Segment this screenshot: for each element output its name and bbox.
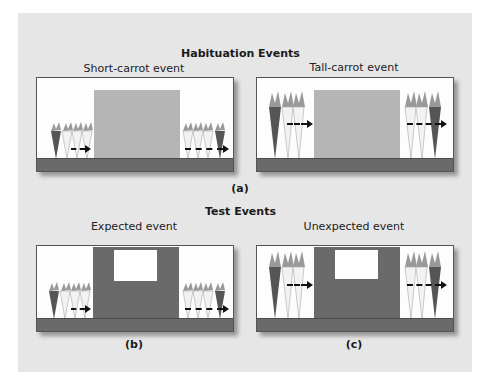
unexpected-event-label: (c)	[254, 338, 454, 351]
screen-window	[335, 250, 378, 279]
motion-arrow-icon	[185, 148, 223, 150]
screen	[93, 247, 179, 319]
habituation-title: Habituation Events	[0, 47, 481, 60]
motion-arrow-icon	[287, 284, 307, 286]
motion-arrow-icon	[407, 123, 441, 125]
motion-arrow-icon	[407, 284, 441, 286]
short-carrots-right-icon	[181, 121, 229, 159]
screen	[94, 90, 180, 159]
screen	[314, 247, 400, 319]
motion-arrow-icon	[71, 148, 85, 150]
tall-carrot-title: Tall-carrot event	[254, 61, 454, 74]
short-carrots-left-icon	[47, 281, 95, 319]
short-carrots-left-icon	[49, 121, 97, 159]
tall-carrot-panel	[256, 77, 454, 172]
expected-event-label: (b)	[34, 338, 234, 351]
screen-window	[114, 250, 157, 281]
unexpected-event-title: Unexpected event	[254, 220, 454, 233]
test-title: Test Events	[0, 205, 481, 218]
floor	[257, 318, 453, 331]
habituation-label: (a)	[140, 182, 340, 195]
screen	[314, 90, 400, 159]
expected-event-title: Expected event	[34, 220, 234, 233]
expected-event-panel	[36, 245, 234, 332]
motion-arrow-icon	[287, 123, 307, 125]
motion-arrow-icon	[185, 308, 223, 310]
floor	[37, 318, 233, 331]
floor	[257, 158, 453, 171]
short-carrot-panel	[36, 77, 234, 172]
unexpected-event-panel	[256, 245, 454, 332]
short-carrot-title: Short-carrot event	[34, 62, 234, 75]
floor	[37, 158, 233, 171]
short-carrots-right-icon	[181, 281, 229, 319]
motion-arrow-icon	[71, 308, 85, 310]
